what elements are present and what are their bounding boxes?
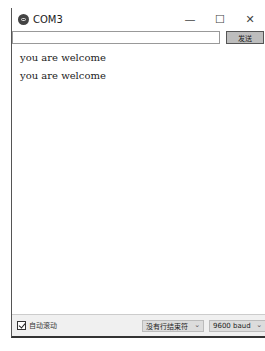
output-line: you are welcome bbox=[20, 67, 265, 85]
footer-bar: 自动滚动 没有行结束符 ⌄ 9600 baud ⌄ bbox=[12, 314, 265, 336]
window-title: COM3 bbox=[33, 14, 63, 25]
autoscroll-toggle[interactable]: 自动滚动 bbox=[17, 320, 57, 330]
autoscroll-label: 自动滚动 bbox=[29, 320, 57, 330]
output-line: you are welcome bbox=[20, 49, 265, 67]
serial-monitor-window: COM3 — ☐ ✕ 发送 you are welcome you are we… bbox=[11, 8, 265, 338]
baud-rate-select[interactable]: 9600 baud ⌄ bbox=[209, 320, 265, 332]
close-button[interactable]: ✕ bbox=[235, 8, 265, 30]
chevron-down-icon: ⌄ bbox=[256, 321, 262, 329]
serial-output[interactable]: you are welcome you are welcome bbox=[12, 49, 265, 311]
line-ending-select[interactable]: 没有行结束符 ⌄ bbox=[142, 320, 204, 332]
line-ending-value: 没有行结束符 bbox=[146, 321, 188, 331]
maximize-button[interactable]: ☐ bbox=[205, 8, 235, 30]
send-input[interactable] bbox=[12, 31, 220, 44]
arduino-icon bbox=[18, 14, 29, 25]
chevron-down-icon: ⌄ bbox=[194, 321, 200, 329]
send-button[interactable]: 发送 bbox=[226, 31, 264, 44]
title-bar: COM3 — ☐ ✕ bbox=[12, 8, 265, 30]
minimize-button[interactable]: — bbox=[175, 8, 205, 30]
send-row: 发送 bbox=[12, 31, 265, 45]
baud-rate-value: 9600 baud bbox=[213, 322, 251, 330]
autoscroll-checkbox[interactable] bbox=[17, 321, 26, 330]
